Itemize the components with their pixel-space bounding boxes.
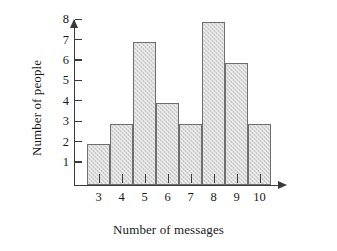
x-axis-tick [214,174,215,183]
bar [156,103,179,185]
x-axis-tick-label: 7 [187,191,193,204]
histogram-chart: Number of people 12345678 345678910 Numb… [0,0,337,251]
x-axis-tick [145,174,146,183]
y-axis-tick-label: 2 [63,135,69,148]
x-axis-tick-label: 9 [233,191,239,204]
x-axis-tick-label: 6 [164,191,170,204]
y-axis-title: Number of people [29,23,45,193]
y-axis-tick-label: 1 [63,156,69,169]
bar-series [74,14,289,186]
x-axis-tick-label: 3 [95,191,101,204]
plot-area: 12345678 345678910 [74,14,289,184]
x-axis-tick [99,174,100,183]
x-axis-tick-label: 8 [210,191,216,204]
y-axis-tick-label: 7 [63,33,69,46]
x-axis-tick [122,174,123,183]
x-axis-tick-label: 5 [141,191,147,204]
bar [133,42,156,185]
y-axis-tick-label: 5 [63,74,69,87]
y-axis-tick-label: 4 [63,95,69,108]
x-axis-tick [191,174,192,183]
y-axis-tick-label: 3 [63,115,69,128]
bar [225,63,248,185]
x-axis-title: Number of messages [0,222,337,238]
x-axis-tick-label: 4 [118,191,124,204]
x-axis-tick [260,174,261,183]
x-axis-tick [237,174,238,183]
x-axis-tick [168,174,169,183]
bar [202,22,225,185]
y-axis-tick-label: 8 [63,13,69,26]
x-axis-tick-label: 10 [253,191,266,204]
y-axis-tick-label: 6 [63,54,69,67]
